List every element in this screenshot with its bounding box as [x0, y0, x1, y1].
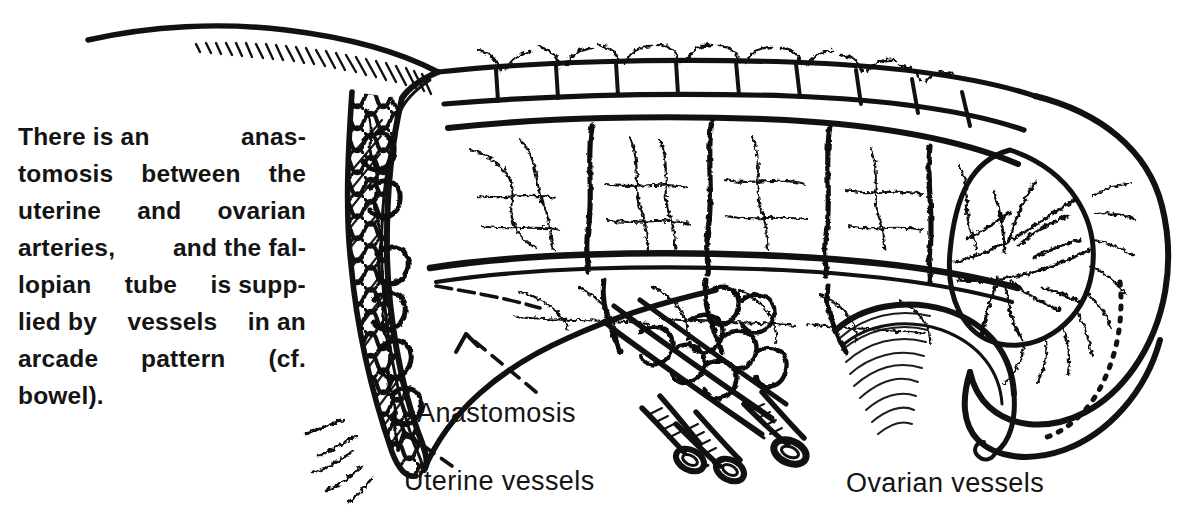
figure-page: There is an anas- tomosis between the ut… — [0, 0, 1193, 531]
anatomical-illustration — [0, 0, 1193, 531]
